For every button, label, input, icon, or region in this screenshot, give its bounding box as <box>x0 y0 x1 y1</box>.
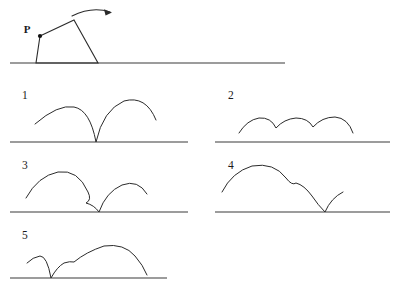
option-4-number: 4 <box>228 159 234 171</box>
rotation-arrow-head <box>104 9 112 15</box>
option-3-number: 3 <box>22 159 28 171</box>
option-2-number: 2 <box>228 89 234 101</box>
option-4-trace-curve <box>222 165 343 212</box>
option-5-trace-curve <box>27 245 147 278</box>
rotation-arrow-curve <box>72 10 110 16</box>
point-p-marker <box>38 34 42 38</box>
rolling-polygon-trace-figure: P 1 2 3 4 5 <box>0 0 406 286</box>
option-5-group[interactable]: 5 <box>10 229 167 278</box>
option-1-number: 1 <box>22 89 28 101</box>
option-1-trace-curve <box>35 100 156 142</box>
option-2-group[interactable]: 2 <box>215 89 390 142</box>
option-5-number: 5 <box>22 229 28 241</box>
rolling-polygon-shape <box>36 20 98 63</box>
figure-root: P 1 2 3 4 5 <box>0 0 406 286</box>
option-3-group[interactable]: 3 <box>10 159 188 212</box>
option-2-trace-curve <box>239 117 353 133</box>
point-p-label: P <box>24 23 31 35</box>
option-1-group[interactable]: 1 <box>10 89 188 142</box>
prompt-figure-group: P <box>10 9 285 63</box>
option-3-trace-curve <box>26 172 147 212</box>
option-4-group[interactable]: 4 <box>215 159 390 212</box>
